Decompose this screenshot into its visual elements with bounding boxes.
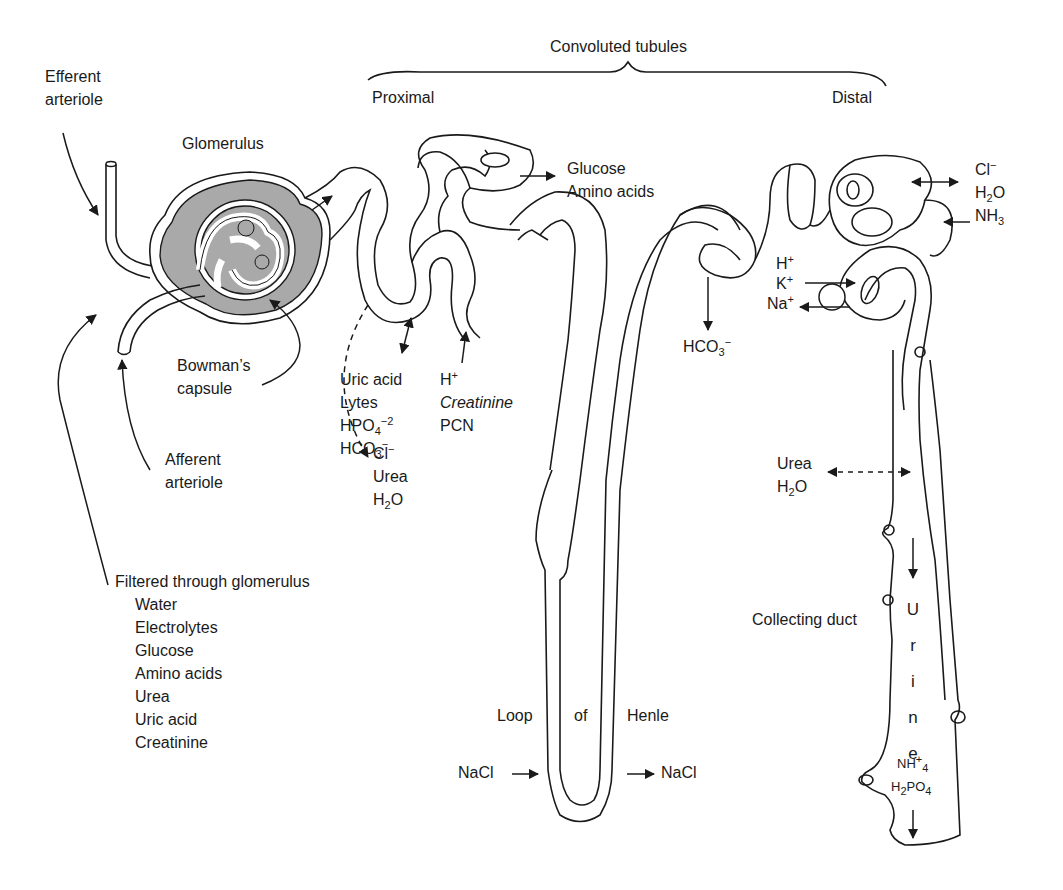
urine-solutes-list: NH+4 H2PO4 (897, 752, 931, 798)
nh3-text: NH3 (975, 204, 1005, 227)
pump-h-text: H+ (776, 254, 794, 274)
lytes-text: Lytes (340, 391, 402, 414)
afferent-arteriole-pointer (122, 360, 150, 470)
urine-letter: i (903, 664, 923, 700)
convoluted-tubules-label: Convoluted tubules (550, 37, 687, 57)
glucose-amino-acids-label: Glucose Amino acids (567, 157, 654, 203)
filtered-item: Urea (115, 685, 310, 708)
efferent-line-1: Efferent (45, 65, 103, 88)
filtered-list: Filtered through glomerulus Water Electr… (115, 570, 310, 754)
filtered-title: Filtered through glomerulus (115, 570, 310, 593)
h2o-text: H2O (373, 488, 408, 511)
proximal-secreted-list: H+ Creatinine PCN (440, 368, 513, 437)
collecting-duct-label: Collecting duct (752, 610, 857, 630)
henle-label: Henle (627, 706, 669, 726)
filtered-item: Glucose (115, 639, 310, 662)
pcn-text: PCN (440, 414, 513, 437)
distal-cl-text: Cl− (975, 158, 1005, 181)
bowmans-capsule-label: Bowman’s capsule (177, 354, 251, 400)
proximal-label: Proximal (372, 88, 434, 108)
loop-of-henle (536, 205, 740, 821)
distal-label: Distal (832, 88, 872, 108)
nacl-out-label: NaCl (661, 763, 697, 783)
bowmans-line-1: Bowman’s (177, 354, 251, 377)
urine-letters: U r i n e (903, 592, 923, 772)
afferent-arteriole-label: Afferent arteriole (165, 448, 223, 494)
h2po4-text: H2PO4 (891, 775, 931, 798)
amino-acids-text: Amino acids (567, 180, 654, 203)
afferent-line-1: Afferent (165, 448, 223, 471)
bowmans-line-2: capsule (177, 377, 251, 400)
loop-label: Loop (497, 706, 533, 726)
filtered-item: Creatinine (115, 731, 310, 754)
efferent-line-2: arteriole (45, 88, 103, 111)
pump-k-text: K+ (776, 274, 794, 294)
glucose-text: Glucose (567, 157, 654, 180)
distal-pump-list: H+ K+ Na+ (776, 254, 794, 314)
cl-text: Cl− (373, 442, 408, 465)
urine-letter: U (903, 592, 923, 628)
filtered-pointer (58, 315, 108, 585)
ion-pump (819, 284, 845, 310)
collecting-passive-list: Urea H2O (777, 452, 812, 498)
distal-h2o-text: H2O (975, 181, 1005, 204)
urine-letter: r (903, 628, 923, 664)
collecting-urea-text: Urea (777, 452, 812, 475)
efferent-arteriole-tube (106, 162, 152, 279)
filtered-item: Water (115, 593, 310, 616)
uric-acid-text: Uric acid (340, 368, 402, 391)
hpo4-text: HPO4−2 (340, 414, 402, 437)
pump-na-text: Na+ (767, 294, 794, 314)
nacl-in-label: NaCl (458, 763, 494, 783)
nh4-text: NH+4 (897, 752, 931, 775)
h-ion-text: H+ (440, 368, 513, 391)
filtered-item: Electrolytes (115, 616, 310, 639)
creatinine-text: Creatinine (440, 391, 513, 414)
convoluted-tubules-brace (368, 62, 886, 86)
uric-acid-exchange-arrow (402, 318, 411, 353)
collecting-h2o-text: H2O (777, 475, 812, 498)
filtered-item: Amino acids (115, 662, 310, 685)
proximal-tubule (305, 135, 607, 560)
glomerulus-label: Glomerulus (182, 134, 264, 154)
urine-letter: n (903, 700, 923, 736)
of-label: of (574, 706, 587, 726)
afferent-line-2: arteriole (165, 471, 223, 494)
distal-bicarbonate-label: HCO3− (683, 337, 731, 357)
proximal-passive-list: Cl− Urea H2O (373, 442, 408, 511)
distal-exchange-list: Cl− H2O NH3 (975, 158, 1005, 227)
efferent-arteriole-pointer (63, 133, 98, 215)
efferent-arteriole-label: Efferent arteriole (45, 65, 103, 111)
urea-text: Urea (373, 465, 408, 488)
filtered-item: Uric acid (115, 708, 310, 731)
